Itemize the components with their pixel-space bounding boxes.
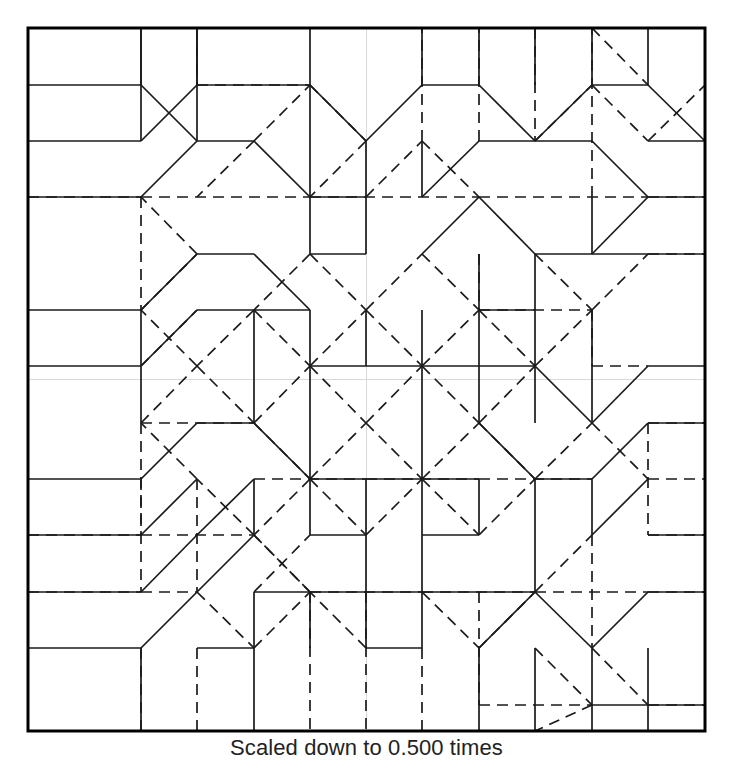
figure-caption: Scaled down to 0.500 times	[0, 735, 733, 761]
figure-page: Scaled down to 0.500 times	[0, 0, 733, 768]
crease-pattern-container	[0, 0, 733, 740]
crease-pattern-svg	[0, 0, 733, 740]
